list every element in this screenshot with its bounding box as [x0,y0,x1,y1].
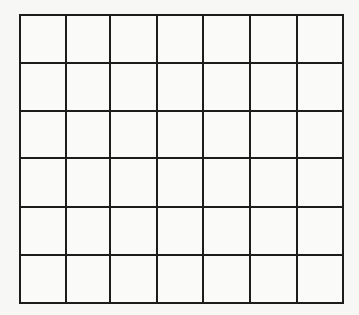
grid-cell-r1-c1 [20,15,66,63]
grid-cell-r4-c6 [250,158,297,207]
grid-cell-r2-c5 [203,63,250,111]
grid-cell-r2-c1 [20,63,66,111]
grid-cell-r3-c2 [66,111,110,158]
grid-cell-r2-c3 [110,63,157,111]
grid-cell-r1-c5 [203,15,250,63]
grid-cell-r1-c2 [66,15,110,63]
grid-cell-r6-c7 [297,255,343,303]
grid-cell-r5-c4 [157,207,203,255]
grid-cell-r2-c2 [66,63,110,111]
grid-cell-r6-c5 [203,255,250,303]
grid-cell-r1-c3 [110,15,157,63]
grid-cell-r5-c6 [250,207,297,255]
grid-cell-r6-c4 [157,255,203,303]
grid-cell-r6-c1 [20,255,66,303]
grid-cell-r5-c2 [66,207,110,255]
grid-cell-r4-c4 [157,158,203,207]
grid-cell-r5-c5 [203,207,250,255]
grid-cell-r6-c6 [250,255,297,303]
grid-cell-r2-c4 [157,63,203,111]
grid-cell-r4-c3 [110,158,157,207]
grid-cell-r5-c3 [110,207,157,255]
grid-cell-r5-c7 [297,207,343,255]
grid-cell-r6-c2 [66,255,110,303]
grid-cell-r3-c6 [250,111,297,158]
grid-cell-r3-c7 [297,111,343,158]
grid-cell-r6-c3 [110,255,157,303]
grid-svg [0,0,359,315]
grid-cell-r1-c6 [250,15,297,63]
grid-cell-r3-c4 [157,111,203,158]
grid-cell-r2-c6 [250,63,297,111]
grid-cell-r3-c5 [203,111,250,158]
grid-diagram [0,0,359,315]
grid-cell-r4-c7 [297,158,343,207]
grid-cell-r4-c2 [66,158,110,207]
grid-cell-r1-c7 [297,15,343,63]
grid-cell-r3-c3 [110,111,157,158]
grid-cell-r3-c1 [20,111,66,158]
grid-cell-r4-c1 [20,158,66,207]
grid-cell-r5-c1 [20,207,66,255]
grid-cell-r1-c4 [157,15,203,63]
grid-cell-r4-c5 [203,158,250,207]
grid-cell-r2-c7 [297,63,343,111]
